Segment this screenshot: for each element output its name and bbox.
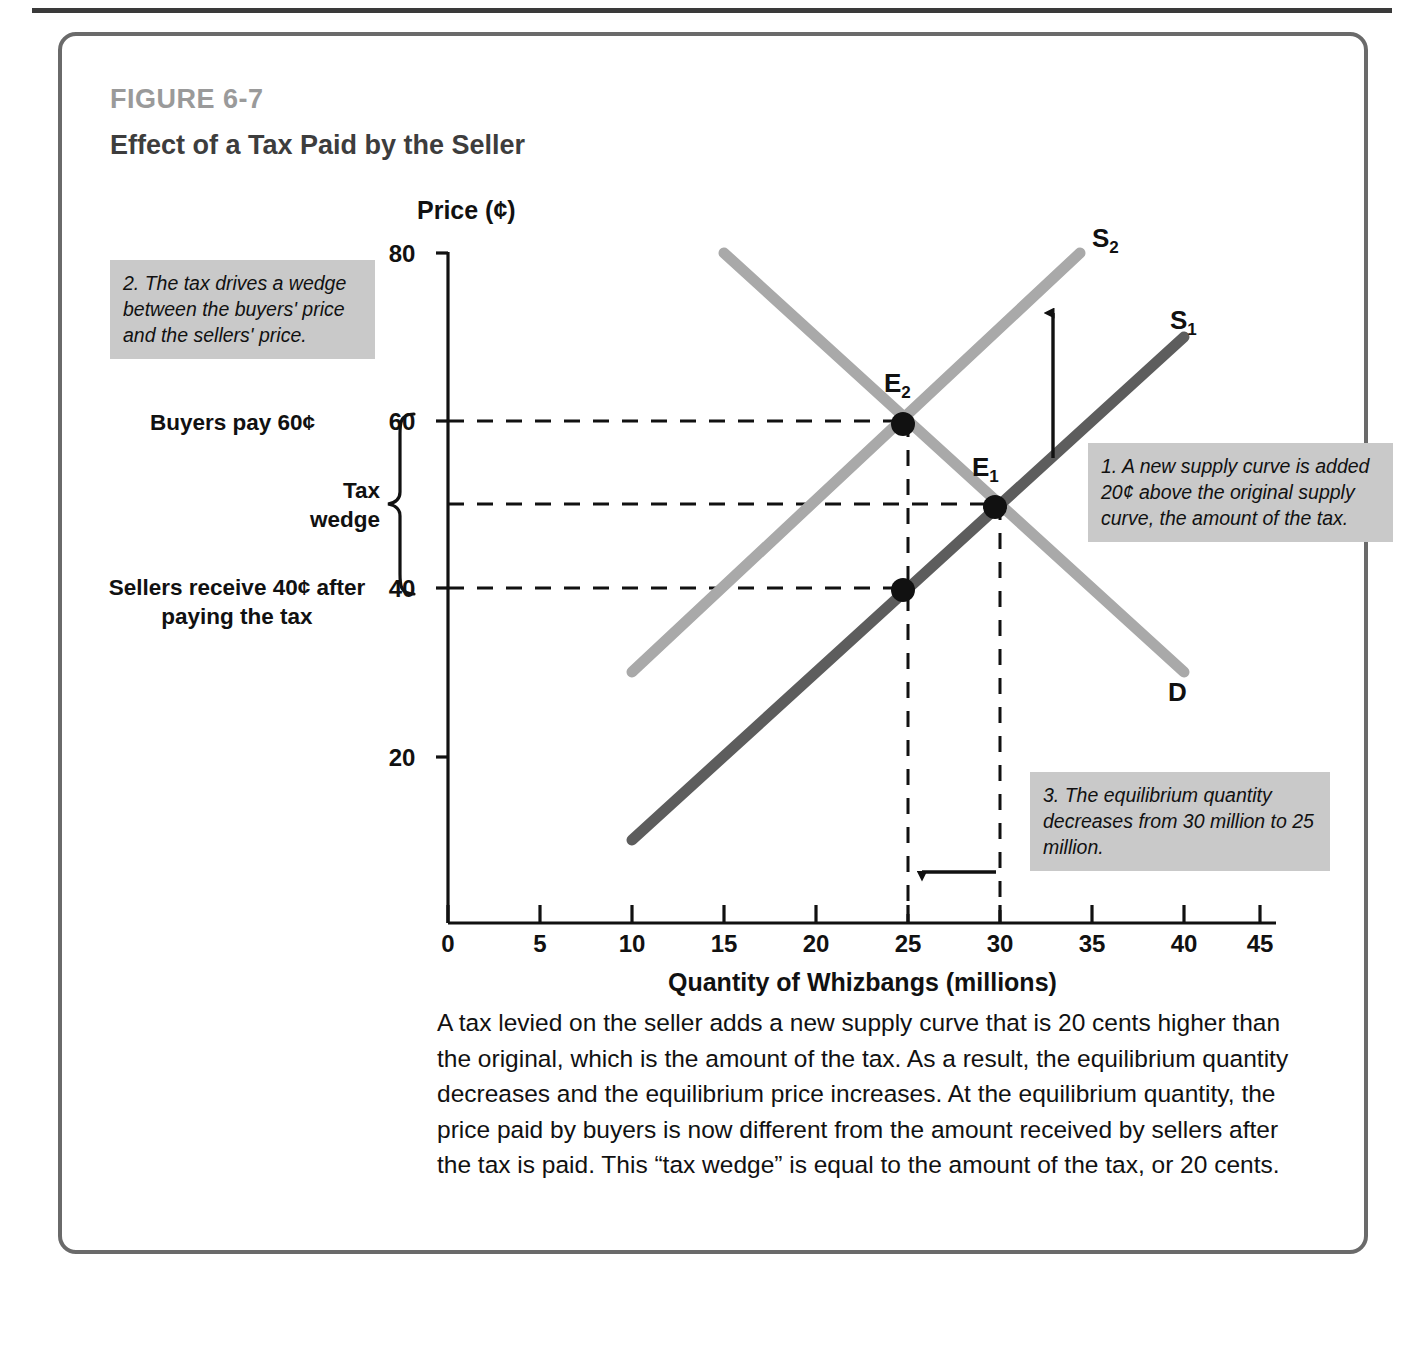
annotation-note-1: 1. A new supply curve is added 20¢ above…: [1088, 443, 1393, 542]
y-tick-20: 20: [382, 744, 422, 772]
tax-wedge-brace: [388, 414, 414, 594]
y-tick-80: 80: [382, 240, 422, 268]
label-tax-wedge: Taxwedge: [230, 476, 380, 534]
dashed-price-guides: [448, 421, 995, 588]
equilibrium-label-e2: E2: [884, 368, 911, 403]
label-tax-wedge-line2: wedge: [310, 507, 380, 532]
supply-curve-s2: [632, 253, 1080, 672]
figure-page: FIGURE 6-7 Effect of a Tax Paid by the S…: [0, 0, 1424, 1349]
annotation-note-2: 2. The tax drives a wedge between the bu…: [110, 260, 375, 359]
curve-label-s2-text: S: [1092, 223, 1109, 253]
x-tick-5: 5: [520, 930, 560, 958]
x-tick-35: 35: [1072, 930, 1112, 958]
x-tick-15: 15: [704, 930, 744, 958]
marker-e2: [891, 412, 915, 436]
equilibrium-label-e2-text: E: [884, 368, 901, 398]
x-tick-20: 20: [796, 930, 836, 958]
curve-label-s1-text: S: [1170, 305, 1187, 335]
curve-label-d: D: [1168, 677, 1187, 708]
label-sellers-receive: Sellers receive 40¢ after paying the tax: [92, 573, 382, 631]
y-axis-ticks: [436, 253, 448, 757]
x-tick-30: 30: [980, 930, 1020, 958]
curve-label-s1: S1: [1170, 305, 1197, 340]
x-tick-0: 0: [428, 930, 468, 958]
equilibrium-label-e2-sub: 2: [901, 383, 910, 402]
x-axis-ticks: [448, 905, 1260, 923]
marker-seller-price: [891, 578, 915, 602]
equilibrium-label-e1-sub: 1: [989, 467, 998, 486]
x-tick-25: 25: [888, 930, 928, 958]
annotation-note-3: 3. The equilibrium quantity decreases fr…: [1030, 772, 1330, 871]
label-tax-wedge-line1: Tax: [343, 478, 380, 503]
equilibrium-label-e1: E1: [972, 452, 999, 487]
equilibrium-label-e1-text: E: [972, 452, 989, 482]
label-buyers-pay: Buyers pay 60¢: [150, 408, 400, 437]
x-tick-10: 10: [612, 930, 652, 958]
y-tick-40: 40: [382, 575, 422, 603]
x-tick-45: 45: [1240, 930, 1280, 958]
curve-label-s2-sub: 2: [1109, 238, 1118, 257]
curve-label-s1-sub: 1: [1187, 320, 1196, 339]
figure-caption: A tax levied on the seller adds a new su…: [437, 1005, 1317, 1183]
curve-label-s2: S2: [1092, 223, 1119, 258]
x-tick-40: 40: [1164, 930, 1204, 958]
marker-e1: [983, 495, 1007, 519]
